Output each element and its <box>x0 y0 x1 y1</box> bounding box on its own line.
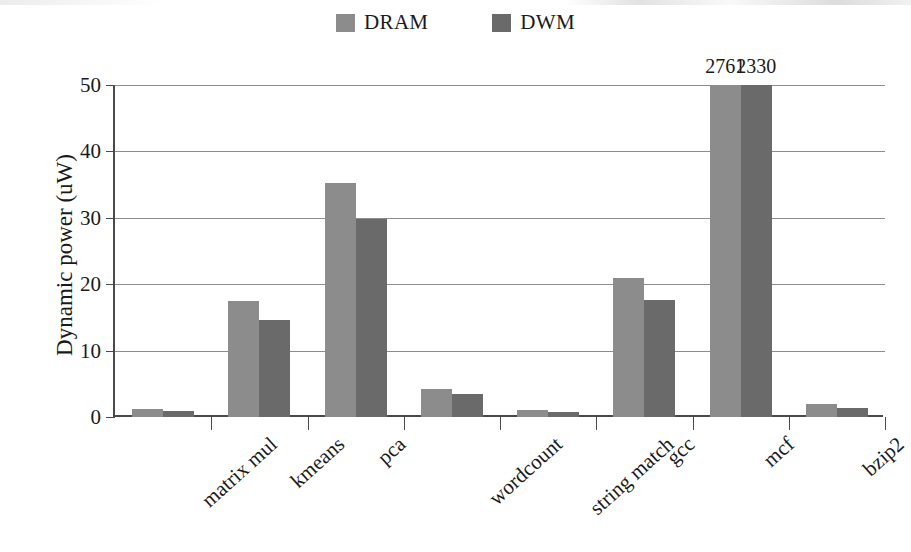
bar-dwm <box>356 219 387 417</box>
x-axis-label: string match <box>585 432 679 520</box>
x-axis-tickmark <box>211 417 212 430</box>
x-axis-labels: matrix mulkmeanspcawordcountstring match… <box>113 432 883 552</box>
x-axis-label: kmeans <box>285 432 349 494</box>
legend-label-dwm: DWM <box>520 12 575 33</box>
y-axis-tickmark <box>106 417 115 418</box>
x-axis-tickmark <box>596 417 597 430</box>
x-axis-tickmark <box>789 417 790 430</box>
x-axis-label: matrix mul <box>197 432 283 513</box>
x-axis-label: pca <box>372 432 410 470</box>
chart-legend: DRAM DWM <box>0 12 911 33</box>
bar-dram <box>517 410 548 417</box>
y-axis-title: Dynamic power (uW) <box>52 90 78 420</box>
legend-swatch-dram <box>336 14 355 32</box>
legend-swatch-dwm <box>492 14 511 32</box>
bar-group <box>308 85 404 417</box>
x-axis-label: mcf <box>758 432 799 472</box>
y-axis-tickmark <box>106 284 115 285</box>
bar-group <box>404 85 500 417</box>
bar-dwm <box>837 408 868 417</box>
bar-value-label: 2330 <box>736 55 776 78</box>
bar-dwm <box>548 412 579 417</box>
bar-dwm <box>644 300 675 417</box>
bar-group <box>789 85 885 417</box>
x-axis-tickmark <box>404 417 405 430</box>
bar-groups: 27612330 <box>115 85 885 417</box>
bar-dram <box>228 301 259 417</box>
bar-dwm: 2330 <box>741 85 772 417</box>
legend-label-dram: DRAM <box>364 12 428 33</box>
bar-dram <box>421 389 452 417</box>
bar-dram <box>132 409 163 417</box>
x-axis-tickmark <box>308 417 309 430</box>
bar-group <box>115 85 211 417</box>
bar-dram <box>325 183 356 417</box>
bar-chart: DRAM DWM Dynamic power (uW) 01020304050 … <box>0 0 911 552</box>
bar-dram <box>613 278 644 417</box>
y-axis-tickmark <box>106 85 115 86</box>
bar-dram: 2761 <box>710 85 741 417</box>
bar-dram <box>806 404 837 417</box>
legend-item-dram: DRAM <box>336 12 428 33</box>
x-axis-tickmark <box>885 417 886 430</box>
bar-group: 27612330 <box>693 85 789 417</box>
bar-dwm <box>259 320 290 417</box>
x-axis-tickmark <box>693 417 694 430</box>
y-axis-tickmark <box>106 151 115 152</box>
scan-artifact <box>0 0 911 5</box>
plot-area: 01020304050 27612330 <box>113 85 883 417</box>
x-axis-label: bzip2 <box>858 432 909 482</box>
x-axis-label: wordcount <box>484 432 567 511</box>
bar-group <box>596 85 692 417</box>
x-axis-tickmark <box>500 417 501 430</box>
bar-dwm <box>163 411 194 417</box>
bar-dwm <box>452 394 483 417</box>
bar-group <box>500 85 596 417</box>
y-axis-tickmark <box>106 218 115 219</box>
y-axis-tickmark <box>106 351 115 352</box>
legend-item-dwm: DWM <box>492 12 575 33</box>
bar-group <box>211 85 307 417</box>
